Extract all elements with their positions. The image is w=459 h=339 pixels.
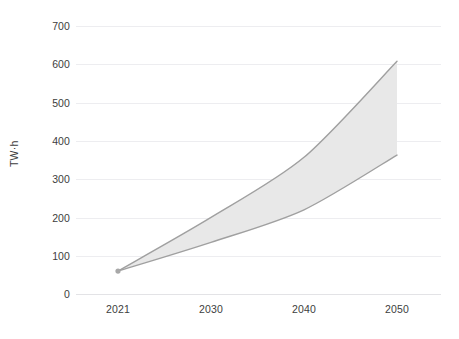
x-tick-2040: 2040	[292, 303, 316, 315]
x-tick-2030: 2030	[199, 303, 223, 315]
chart-container: TW·h 700 600 500 400 300 200 100 0 2021 …	[0, 0, 459, 339]
x-tick-2021: 2021	[106, 303, 130, 315]
uncertainty-band-area	[118, 61, 397, 271]
start-point-marker	[115, 268, 120, 273]
plot-area	[0, 0, 459, 339]
x-tick-2050: 2050	[385, 303, 409, 315]
